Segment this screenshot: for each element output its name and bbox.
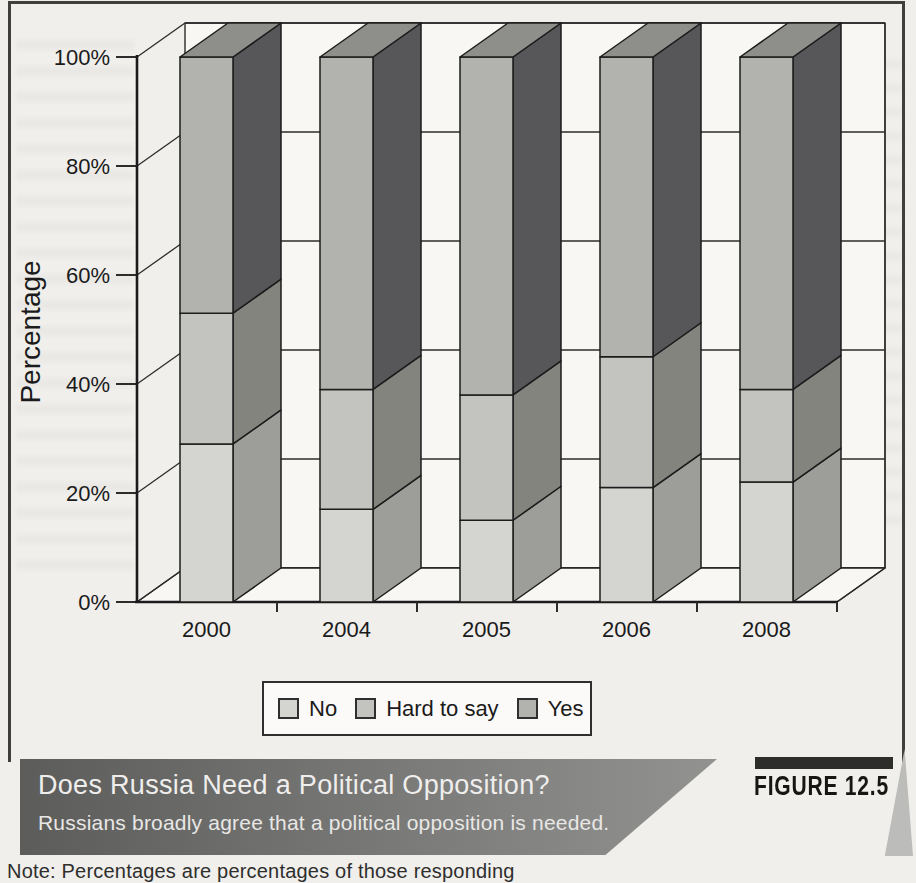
legend-label: No	[309, 696, 337, 722]
x-category-label: 2006	[602, 617, 651, 642]
segment-side-Yes	[513, 23, 561, 395]
chart-legend: NoHard to sayYes	[262, 681, 592, 736]
legend-swatch-icon	[278, 698, 299, 719]
y-tick-label: 80%	[66, 154, 110, 179]
y-tick-label: 60%	[66, 263, 110, 288]
chart-line	[137, 459, 185, 493]
segment-front-No	[740, 482, 793, 602]
x-category-label: 2008	[742, 617, 791, 642]
figure-note: Note: Percentages are percentages of tho…	[7, 860, 515, 883]
bar-2000	[180, 23, 281, 602]
y-axis: 0%20%40%60%80%100%Percentage	[15, 23, 185, 615]
y-tick-label: 20%	[66, 481, 110, 506]
segment-front-Yes	[460, 57, 513, 395]
figure-subtitle: Russians broadly agree that a political …	[38, 811, 609, 835]
y-tick-label: 100%	[54, 45, 110, 70]
segment-front-Hard to say	[600, 357, 653, 488]
stacked-bar-chart-3d: 0%20%40%60%80%100%Percentage200020042005…	[0, 0, 916, 660]
legend-label: Yes	[548, 696, 584, 722]
legend-item: Hard to say	[355, 696, 499, 722]
caption-band: Does Russia Need a Political Opposition?…	[20, 759, 717, 855]
segment-front-No	[600, 488, 653, 602]
chart-line	[137, 23, 185, 57]
x-category-label: 2000	[182, 617, 231, 642]
segment-front-Hard to say	[320, 389, 373, 509]
y-tick-label: 40%	[66, 372, 110, 397]
segment-side-Yes	[653, 23, 701, 357]
segment-side-Yes	[373, 23, 421, 389]
segment-front-No	[460, 520, 513, 602]
bar-2004	[320, 23, 421, 602]
segment-front-Yes	[600, 57, 653, 357]
chart-line	[137, 132, 185, 166]
y-tick-label: 0%	[78, 590, 110, 615]
legend-swatch-icon	[355, 698, 376, 719]
chart-line	[137, 350, 185, 384]
segment-front-Yes	[180, 57, 233, 313]
segment-front-Hard to say	[180, 313, 233, 444]
segment-front-Hard to say	[740, 389, 793, 482]
figure-tab-bar	[755, 757, 893, 769]
figure-title: Does Russia Need a Political Opposition?	[38, 770, 550, 801]
segment-front-No	[180, 444, 233, 602]
chart-line	[137, 241, 185, 275]
figure-number-label: FIGURE 12.5	[754, 771, 889, 802]
segment-front-Hard to say	[460, 395, 513, 520]
legend-item: No	[278, 696, 337, 722]
segment-front-Yes	[740, 57, 793, 389]
x-category-label: 2005	[462, 617, 511, 642]
legend-label: Hard to say	[386, 696, 499, 722]
segment-side-Yes	[233, 23, 281, 313]
segment-side-Yes	[793, 23, 841, 389]
x-axis: 20002004200520062008	[135, 602, 838, 642]
bar-2005	[460, 23, 561, 602]
y-axis-title: Percentage	[15, 260, 46, 403]
segment-front-Yes	[320, 57, 373, 389]
bar-2008	[740, 23, 841, 602]
legend-swatch-icon	[517, 698, 538, 719]
legend-item: Yes	[517, 696, 584, 722]
bar-2006	[600, 23, 701, 602]
segment-front-No	[320, 509, 373, 602]
chart-bars	[180, 23, 841, 602]
x-category-label: 2004	[322, 617, 371, 642]
